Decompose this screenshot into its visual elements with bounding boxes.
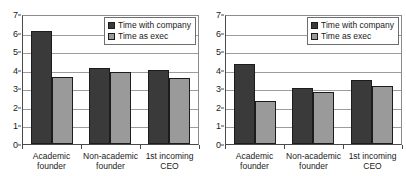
x-axis-category-label: Academicfounder — [22, 151, 81, 171]
legend-item: Time as exec — [311, 31, 394, 42]
x-axis-category-label-line: CEO — [140, 161, 199, 171]
bar — [292, 88, 313, 144]
y-axis-tick-mark — [221, 33, 224, 34]
y-axis-tick-mark — [221, 107, 224, 108]
x-axis-category-label: Non-academicfounder — [81, 151, 140, 171]
y-axis-tick-mark — [18, 145, 21, 146]
x-axis-tick-mark — [199, 145, 200, 149]
legend-label: Time as exec — [321, 31, 371, 42]
x-axis-category-label-line: founder — [81, 161, 140, 171]
y-axis-tick-label: 4 — [0, 66, 18, 75]
x-axis-tick-mark — [343, 145, 344, 149]
y-axis-tick-label: 7 — [0, 11, 18, 20]
bar — [148, 70, 169, 144]
bar-group — [226, 16, 284, 144]
y-axis-tick-mark — [221, 70, 224, 71]
y-axis-tick-mark — [18, 15, 21, 16]
bar — [31, 31, 52, 144]
y-axis-tick-label: 0 — [203, 141, 221, 150]
x-axis-tick-mark — [81, 145, 82, 149]
x-axis-labels: AcademicfounderNon-academicfounder1st in… — [22, 151, 199, 171]
y-axis-tick-label: 4 — [203, 66, 221, 75]
y-axis-tick-mark — [18, 107, 21, 108]
legend-item: Time as exec — [108, 31, 191, 42]
x-axis-category-label-line: Academic — [225, 151, 284, 161]
y-axis-tick-label: 3 — [0, 85, 18, 94]
y-axis-tick-mark — [221, 126, 224, 127]
bar — [255, 101, 276, 144]
y-axis-tick-label: 0 — [0, 141, 18, 150]
chart-panel-left: 01234567Time with companyTime as execAca… — [0, 0, 203, 176]
x-axis-category-label-line: CEO — [343, 161, 402, 171]
legend-item: Time with company — [108, 20, 191, 31]
bar — [372, 86, 393, 144]
x-axis-ticks — [22, 145, 199, 149]
x-axis-category-label-line: 1st incoming — [343, 151, 402, 161]
y-axis-tick-label: 5 — [0, 48, 18, 57]
y-axis-tick-mark — [18, 89, 21, 90]
x-axis-category-label: Non-academicfounder — [284, 151, 343, 171]
x-axis-tick-mark — [402, 145, 403, 149]
legend-label: Time with company — [118, 20, 191, 31]
x-axis-category-label: 1st incomingCEO — [140, 151, 199, 171]
x-axis-labels: AcademicfounderNon-academicfounder1st in… — [225, 151, 402, 171]
dual-bar-chart-figure: 01234567Time with companyTime as execAca… — [0, 0, 406, 176]
y-axis-tick-label: 2 — [0, 103, 18, 112]
y-axis-tick-mark — [18, 70, 21, 71]
bar — [52, 77, 73, 144]
legend-label: Time as exec — [118, 31, 168, 42]
y-axis-tick-mark — [221, 15, 224, 16]
bar — [351, 80, 372, 144]
bar — [110, 72, 131, 144]
x-axis-category-label: 1st incomingCEO — [343, 151, 402, 171]
bar — [234, 64, 255, 144]
x-axis-category-label-line: Non-academic — [284, 151, 343, 161]
y-axis: 01234567 — [0, 15, 18, 145]
y-axis-tick-label: 1 — [203, 122, 221, 131]
y-axis-tick-label: 6 — [203, 29, 221, 38]
y-axis-tick-label: 5 — [203, 48, 221, 57]
y-axis-tick-label: 7 — [203, 11, 221, 20]
x-axis-tick-mark — [22, 145, 23, 149]
y-axis-tick-mark — [18, 126, 21, 127]
legend-swatch-icon — [108, 22, 115, 29]
y-axis-tick-mark — [18, 33, 21, 34]
legend-item: Time with company — [311, 20, 394, 31]
bar — [89, 68, 110, 144]
bar — [313, 92, 334, 144]
y-axis-tick-mark — [221, 52, 224, 53]
x-axis-category-label-line: founder — [22, 161, 81, 171]
y-axis-tick-mark — [221, 89, 224, 90]
legend: Time with companyTime as exec — [104, 17, 196, 45]
legend-label: Time with company — [321, 20, 394, 31]
x-axis-ticks — [225, 145, 402, 149]
x-axis-category-label-line: founder — [284, 161, 343, 171]
x-axis-category-label: Academicfounder — [225, 151, 284, 171]
y-axis-tick-label: 2 — [203, 103, 221, 112]
chart-panel-right: 01234567Time with companyTime as execAca… — [203, 0, 406, 176]
y-axis: 01234567 — [203, 15, 221, 145]
bar-group — [23, 16, 81, 144]
y-axis-tick-label: 6 — [0, 29, 18, 38]
y-axis-tick-label: 1 — [0, 122, 18, 131]
x-axis-category-label-line: Non-academic — [81, 151, 140, 161]
y-axis-tick-label: 3 — [203, 85, 221, 94]
x-axis-category-label-line: Academic — [22, 151, 81, 161]
y-axis-tick-mark — [221, 145, 224, 146]
legend: Time with companyTime as exec — [307, 17, 399, 45]
x-axis-tick-mark — [225, 145, 226, 149]
x-axis-tick-mark — [140, 145, 141, 149]
y-axis-tick-mark — [18, 52, 21, 53]
x-axis-category-label-line: 1st incoming — [140, 151, 199, 161]
x-axis-category-label-line: founder — [225, 161, 284, 171]
legend-swatch-icon — [311, 22, 318, 29]
legend-swatch-icon — [108, 33, 115, 40]
x-axis-tick-mark — [284, 145, 285, 149]
legend-swatch-icon — [311, 33, 318, 40]
bar — [169, 78, 190, 144]
